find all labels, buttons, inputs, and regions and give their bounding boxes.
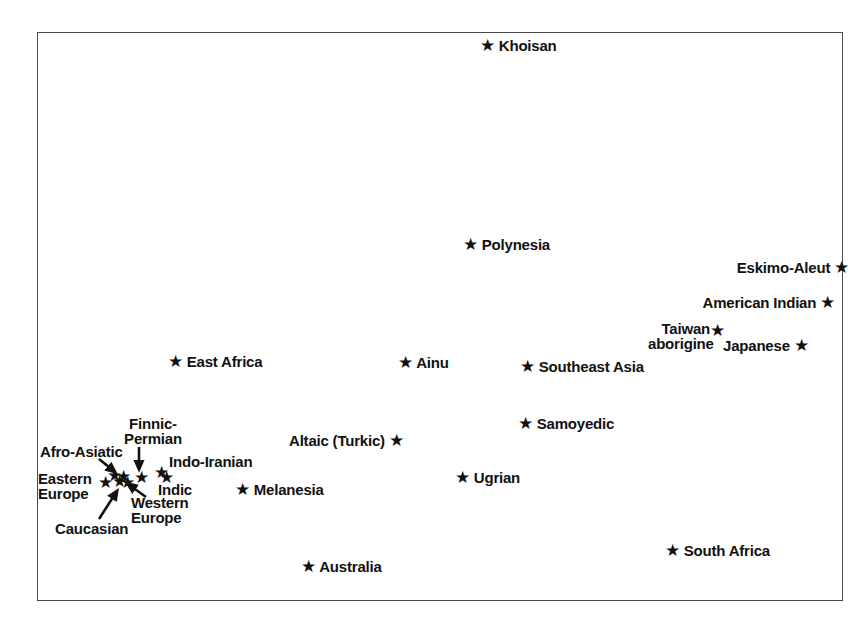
scatter-plot-figure: ★ Khoisan ★ Polynesia Eskimo-Aleut ★ Ame… (0, 0, 868, 631)
data-point-samoyedic[interactable]: ★ Samoyedic (518, 416, 614, 432)
data-point-khoisan[interactable]: ★ Khoisan (480, 38, 557, 54)
star-marker-icon: ★ (480, 36, 495, 55)
callout-label-western-europe[interactable]: Western Europe (131, 495, 201, 525)
point-label-ugrian: Ugrian (474, 469, 520, 486)
data-point-taiwan-aborigine[interactable]: Taiwan aborigine ★ (648, 321, 724, 351)
data-point-japanese[interactable]: Japanese ★ (723, 338, 809, 354)
callout-label-eastern-europe[interactable]: Eastern Europe (38, 471, 98, 501)
callout-eastern-line2: Europe (38, 485, 88, 502)
point-label-eskimo-aleut: Eskimo-Aleut (737, 259, 830, 276)
point-label-australia: Australia (319, 558, 381, 575)
star-marker-icon: ★ (398, 353, 413, 372)
point-label-samoyedic: Samoyedic (537, 415, 614, 432)
point-label-melanesia: Melanesia (254, 481, 324, 498)
point-label-altaic-turkic: Altaic (Turkic) (289, 432, 385, 449)
star-marker-icon: ★ (794, 336, 809, 355)
data-point-altaic-turkic[interactable]: Altaic (Turkic) ★ (289, 433, 404, 449)
callout-finnic-line2: Permian (124, 430, 182, 447)
arrow-caucasian (99, 491, 117, 519)
callout-indic-text: Indic (158, 481, 192, 498)
star-marker-icon: ★ (455, 468, 470, 487)
data-point-australia[interactable]: ★ Australia (301, 559, 382, 575)
point-label-khoisan: Khoisan (499, 37, 557, 54)
star-marker-icon: ★ (463, 235, 478, 254)
data-point-ugrian[interactable]: ★ Ugrian (455, 470, 520, 486)
point-label-southeast-asia: Southeast Asia (539, 358, 644, 375)
point-label-japanese: Japanese (723, 337, 790, 354)
star-marker-icon: ★ (820, 293, 835, 312)
callout-label-afro-asiatic[interactable]: Afro-Asiatic (40, 444, 123, 460)
point-label-east-africa: East Africa (187, 353, 263, 370)
point-label-american-indian: American Indian (703, 294, 817, 311)
callout-label-finnic-permian[interactable]: Finnic- Permian (113, 416, 193, 446)
point-label-taiwan-line2: aborigine (648, 335, 714, 352)
data-point-melanesia[interactable]: ★ Melanesia (235, 482, 324, 498)
callout-western-line2: Europe (131, 509, 181, 526)
star-marker-icon: ★ (518, 414, 533, 433)
callout-indo-iranian-text: Indo-Iranian (169, 453, 252, 470)
data-point-south-africa[interactable]: ★ South Africa (665, 543, 770, 559)
star-marker-icon: ★ (235, 480, 250, 499)
data-point-southeast-asia[interactable]: ★ Southeast Asia (520, 359, 644, 375)
star-marker-icon-western-europe[interactable]: ★ (120, 474, 135, 491)
point-label-ainu: Ainu (416, 354, 449, 371)
star-marker-icon: ★ (301, 557, 316, 576)
star-marker-icon: ★ (520, 357, 535, 376)
callout-label-indo-iranian[interactable]: Indo-Iranian (169, 454, 252, 470)
callout-label-indic[interactable]: Indic (158, 482, 192, 498)
data-point-east-africa[interactable]: ★ East Africa (168, 354, 262, 370)
data-point-eskimo-aleut[interactable]: Eskimo-Aleut ★ (737, 260, 849, 276)
data-point-american-indian[interactable]: American Indian ★ (703, 295, 835, 311)
data-point-polynesia[interactable]: ★ Polynesia (463, 237, 550, 253)
point-label-south-africa: South Africa (684, 542, 770, 559)
star-marker-icon: ★ (834, 258, 849, 277)
star-marker-icon: ★ (168, 352, 183, 371)
callout-afro-asiatic-text: Afro-Asiatic (40, 443, 123, 460)
callout-caucasian-text: Caucasian (55, 520, 128, 537)
star-marker-icon: ★ (665, 541, 680, 560)
point-label-polynesia: Polynesia (482, 236, 550, 253)
data-point-layer: ★ Khoisan ★ Polynesia Eskimo-Aleut ★ Ame… (0, 0, 868, 631)
star-marker-icon: ★ (389, 431, 404, 450)
callout-label-caucasian[interactable]: Caucasian (55, 521, 128, 537)
star-marker-icon-finnic-permian[interactable]: ★ (134, 469, 149, 486)
callout-arrow-layer (0, 0, 868, 631)
data-point-ainu[interactable]: ★ Ainu (398, 355, 449, 371)
